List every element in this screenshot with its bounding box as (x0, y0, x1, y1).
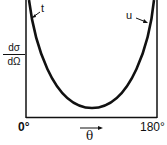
theta-arrowhead (98, 126, 103, 130)
y-axis-label-numerator: dσ (3, 42, 25, 55)
t-label: t (41, 3, 44, 14)
x-tick-0: 0° (18, 121, 29, 133)
x-tick-180: 180° (140, 121, 165, 133)
u-arrowhead (143, 19, 148, 23)
y-axis-label-denominator: dΩ (3, 55, 25, 67)
u-label: u (126, 10, 132, 21)
y-axis-label: dσ dΩ (3, 42, 25, 67)
cross-section-curve (29, 0, 154, 108)
x-axis-label: θ (86, 131, 93, 142)
